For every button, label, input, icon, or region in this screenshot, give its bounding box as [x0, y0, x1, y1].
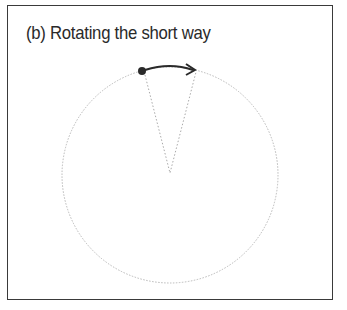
rotation-diagram	[0, 0, 347, 310]
angle-wedge	[145, 72, 196, 173]
start-point	[138, 67, 146, 75]
rotation-circle	[62, 67, 278, 283]
rotation-arrow	[145, 66, 193, 70]
